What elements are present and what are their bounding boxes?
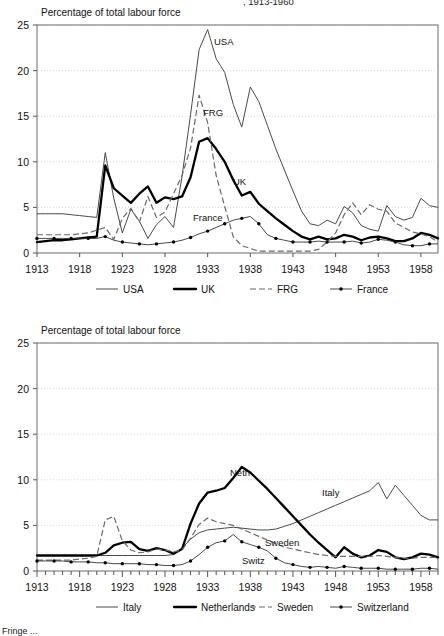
series-label-italy: Italy	[322, 487, 340, 498]
legend-label: Sweden	[277, 602, 313, 613]
x-tick-labels: 1913191819231928193319381943194819531958	[25, 253, 432, 275]
series-label-usa: USA	[214, 36, 234, 47]
y-tick-label: 20	[17, 65, 29, 77]
y-gridlines: 0510152025	[17, 337, 437, 577]
legend-label: Netherlands	[201, 602, 255, 613]
x-tick-label: 1943	[281, 581, 305, 593]
legend-item-france[interactable]: France	[330, 284, 389, 295]
legend-label: FRG	[277, 284, 298, 295]
y-tick-label: 10	[17, 156, 29, 168]
x-tick-label: 1943	[281, 263, 305, 275]
x-tick-labels: 1913191819231928193319381943194819531958	[25, 581, 432, 593]
chart-top-panel: Percentage of total labour force05101520…	[0, 0, 444, 306]
legend-item-frg[interactable]: FRG	[250, 284, 298, 295]
series-label-sweden: Sweden	[265, 537, 299, 548]
legend-label: UK	[201, 284, 215, 295]
legend: USAUKFRGFrance	[96, 284, 389, 295]
x-tick-label: 1918	[68, 581, 92, 593]
legend-label: Switzerland	[357, 602, 409, 613]
series-label-switzerland: Switz	[242, 555, 265, 566]
x-tick-label: 1948	[324, 581, 348, 593]
series-italy	[37, 483, 438, 556]
chart-svg-top: Percentage of total labour force05101520…	[0, 0, 444, 306]
series-label-uk: UK	[233, 176, 247, 187]
y-tick-label: 10	[17, 474, 29, 486]
y-tick-label: 5	[23, 201, 29, 213]
legend-item-sweden[interactable]: Sweden	[250, 602, 313, 613]
y-tick-label: 25	[17, 337, 29, 349]
x-tick-label: 1913	[25, 263, 49, 275]
x-tick-label: 1918	[68, 263, 92, 275]
chart-svg-bottom: Percentage of total labour force05101520…	[0, 318, 444, 636]
y-tick-label: 15	[17, 428, 29, 440]
legend-label: France	[357, 284, 389, 295]
y-tick-label: 25	[17, 19, 29, 31]
y-tick-label: 0	[23, 247, 29, 259]
legend-item-italy[interactable]: Italy	[96, 602, 141, 613]
clipped-page-footer: Fringe ...	[2, 626, 38, 636]
x-tick-label: 1958	[409, 581, 433, 593]
x-tick-label: 1928	[153, 581, 177, 593]
y-tick-label: 5	[23, 519, 29, 531]
x-tick-label: 1933	[196, 263, 220, 275]
legend-label: USA	[123, 284, 144, 295]
legend-label: Italy	[123, 602, 141, 613]
y-tick-label: 20	[17, 383, 29, 395]
legend-item-uk[interactable]: UK	[174, 284, 215, 295]
series-label-france: France	[193, 212, 223, 223]
x-tick-label: 1958	[409, 263, 433, 275]
chart-bottom-panel: Percentage of total labour force05101520…	[0, 318, 444, 636]
x-tick-label: 1938	[239, 581, 263, 593]
series-switzerland	[35, 535, 438, 571]
series-france	[35, 217, 438, 248]
x-tick-label: 1953	[367, 263, 391, 275]
x-minor-ticks	[37, 571, 438, 577]
legend-item-netherlands[interactable]: Netherlands	[174, 602, 255, 613]
series-netherlands	[37, 467, 438, 559]
chart-axis-title: Percentage of total labour force	[41, 7, 181, 18]
legend: ItalyNetherlandsSwedenSwitzerland	[96, 602, 409, 613]
legend-item-usa[interactable]: USA	[96, 284, 144, 295]
chart-axis-title: Percentage of total labour force	[41, 325, 181, 336]
x-tick-label: 1913	[25, 581, 49, 593]
legend-item-switzerland[interactable]: Switzerland	[330, 602, 409, 613]
series-label-frg: FRG	[203, 107, 223, 118]
x-tick-label: 1953	[367, 581, 391, 593]
x-tick-label: 1948	[324, 263, 348, 275]
series-uk	[37, 138, 438, 242]
x-tick-label: 1933	[196, 581, 220, 593]
x-tick-label: 1938	[239, 263, 263, 275]
plot-frame	[37, 343, 438, 571]
y-tick-label: 0	[23, 565, 29, 577]
y-tick-label: 15	[17, 110, 29, 122]
x-tick-label: 1928	[153, 263, 177, 275]
series-label-netherlands: Neth	[230, 467, 250, 478]
x-tick-label: 1923	[111, 581, 135, 593]
x-tick-label: 1923	[111, 263, 135, 275]
